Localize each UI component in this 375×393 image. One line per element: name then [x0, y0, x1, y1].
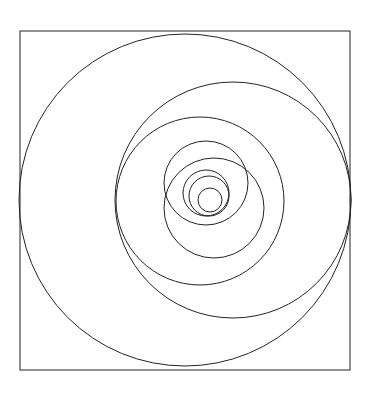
circles-group	[19, 34, 351, 366]
nested-circles-diagram	[0, 0, 375, 393]
circle-6	[183, 170, 229, 216]
circle-7	[189, 176, 229, 216]
circle-3	[116, 117, 284, 285]
circle-2	[115, 82, 351, 318]
circle-5	[164, 158, 264, 258]
circle-8	[198, 188, 222, 212]
circle-4	[164, 141, 248, 225]
circle-1	[19, 34, 351, 366]
